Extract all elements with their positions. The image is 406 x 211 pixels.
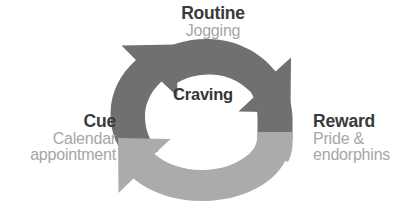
cue-title: Cue — [0, 113, 116, 131]
reward-subtitle-line1: Pride & — [313, 131, 406, 147]
habit-loop-diagram: Routine Jogging Reward Pride & endorphin… — [0, 0, 406, 211]
stage-label-cue: Cue Calendar appointment — [0, 113, 116, 163]
cue-subtitle-line1: Calendar — [0, 131, 116, 147]
stage-label-routine: Routine Jogging — [148, 5, 278, 39]
reward-subtitle-line2: endorphins — [313, 147, 406, 163]
center-label-craving: Craving — [155, 86, 251, 103]
cue-subtitle-line2: appointment — [0, 147, 116, 163]
stage-label-reward: Reward Pride & endorphins — [313, 113, 406, 163]
craving-title: Craving — [155, 86, 251, 103]
routine-subtitle: Jogging — [148, 23, 278, 39]
reward-title: Reward — [313, 113, 406, 131]
routine-title: Routine — [148, 5, 278, 23]
